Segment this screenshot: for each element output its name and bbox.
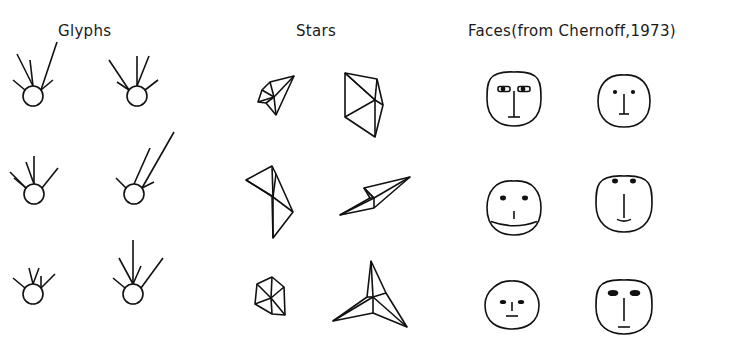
face-5 <box>485 281 539 329</box>
face-2 <box>598 75 650 127</box>
glyphs-panel <box>10 42 174 304</box>
eye-icon <box>631 291 640 296</box>
face-1 <box>487 72 541 126</box>
star-1 <box>258 76 294 115</box>
eye-icon <box>523 196 527 199</box>
figure-canvas <box>0 0 750 346</box>
glyph-2 <box>109 56 158 106</box>
face-outline <box>487 181 541 235</box>
mouth <box>617 219 631 221</box>
eye-icon <box>609 291 618 296</box>
glyph-5 <box>13 268 55 304</box>
eye-icon <box>632 91 635 94</box>
eye-icon <box>614 91 617 94</box>
star-6 <box>333 261 407 327</box>
face-6 <box>596 280 652 334</box>
glyph-4 <box>116 132 174 204</box>
mouth <box>491 222 537 226</box>
eye-icon <box>613 179 617 182</box>
eye-icon <box>501 196 505 199</box>
faces-panel <box>485 72 652 334</box>
star-5 <box>255 277 285 315</box>
stars-panel <box>246 73 410 327</box>
eye-icon <box>519 301 524 304</box>
glyph-6 <box>113 240 163 304</box>
star-3 <box>246 166 293 238</box>
eye-icon <box>631 179 635 182</box>
star-2 <box>345 73 383 137</box>
face-4 <box>596 176 652 232</box>
star-4 <box>340 177 410 215</box>
glyph-3 <box>10 156 58 204</box>
eye-icon <box>501 301 506 304</box>
glyph-1 <box>13 42 57 106</box>
face-3 <box>487 181 541 235</box>
